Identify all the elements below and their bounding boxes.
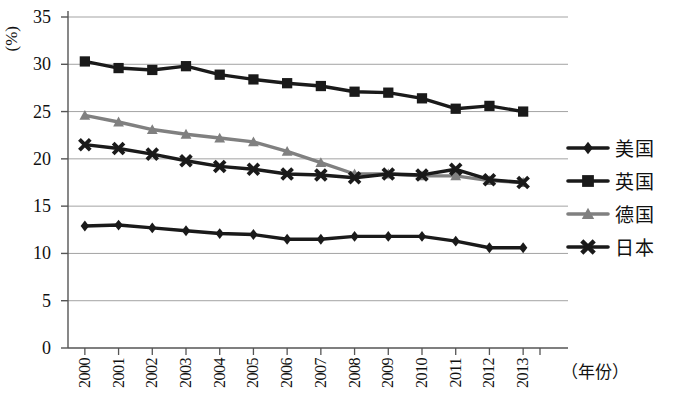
y-tick-label: 15 <box>11 197 51 215</box>
data-point-marker <box>417 93 427 103</box>
data-point-marker <box>113 63 123 73</box>
x-tick-label: 2006 <box>278 358 296 388</box>
legend-item-diamond[interactable]: 美国 <box>566 131 672 164</box>
x-tick-label: 2004 <box>211 358 229 388</box>
data-point-marker <box>383 88 393 98</box>
data-point-marker <box>350 231 358 242</box>
data-point-marker <box>181 61 191 71</box>
data-point-marker <box>148 222 156 233</box>
data-point-marker <box>114 220 122 231</box>
data-point-marker <box>451 104 461 114</box>
legend-marker-icon <box>566 236 610 258</box>
x-tick-label: 2000 <box>76 358 94 388</box>
data-point-marker <box>248 74 258 84</box>
legend-marker-icon <box>566 137 610 159</box>
data-point-marker <box>518 106 528 116</box>
legend-item-label: 美国 <box>615 134 655 161</box>
y-tick-label: 30 <box>11 55 51 73</box>
data-point-marker <box>215 70 225 80</box>
y-tick-label: 5 <box>11 292 51 310</box>
grid-lines <box>68 17 568 301</box>
y-tick-label: 10 <box>11 244 51 262</box>
x-tick-label: 2002 <box>143 358 161 388</box>
data-point-marker <box>384 231 392 242</box>
x-tick-label: 2013 <box>514 358 532 388</box>
x-tick-label: 2003 <box>177 358 195 388</box>
data-point-marker <box>582 175 594 187</box>
data-point-marker <box>249 229 257 240</box>
series-diamond <box>81 220 528 253</box>
data-point-marker <box>484 101 494 111</box>
x-tick-label: 2012 <box>480 358 498 388</box>
data-point-marker <box>485 242 493 253</box>
y-tick-label: 35 <box>11 8 51 26</box>
data-point-marker <box>147 65 157 75</box>
series-square <box>80 56 529 116</box>
x-tick-label: 2007 <box>312 358 330 388</box>
legend-item-triangle[interactable]: 德国 <box>566 197 672 230</box>
x-axis-unit-label: （年份） <box>561 358 629 383</box>
y-axis-ticks <box>61 17 68 348</box>
legend-item-label: 日本 <box>615 233 655 260</box>
x-tick-label: 2010 <box>413 358 431 388</box>
legend-item-square[interactable]: 英国 <box>566 164 672 197</box>
line-chart: (%) （年份） 05101520253035 2000200120022003… <box>0 0 674 402</box>
data-series-group <box>79 56 528 253</box>
x-tick-label: 2008 <box>346 358 364 388</box>
y-axis-unit-label: (%) <box>2 26 22 51</box>
x-tick-label: 2001 <box>110 358 128 388</box>
data-point-marker <box>418 231 426 242</box>
legend-marker-icon <box>566 203 610 225</box>
data-point-marker <box>80 56 90 66</box>
y-tick-label: 20 <box>11 150 51 168</box>
data-point-marker <box>452 236 460 247</box>
data-point-marker <box>583 141 593 153</box>
series-cross <box>79 139 528 188</box>
x-tick-label: 2011 <box>447 358 465 387</box>
data-point-marker <box>317 234 325 245</box>
legend-item-label: 英国 <box>615 167 655 194</box>
legend-item-label: 德国 <box>615 200 655 227</box>
y-tick-label: 25 <box>11 103 51 121</box>
data-point-marker <box>282 78 292 88</box>
x-tick-label: 2005 <box>244 358 262 388</box>
data-point-marker <box>81 221 89 232</box>
data-point-marker <box>316 81 326 91</box>
data-point-marker <box>283 234 291 245</box>
chart-legend: 美国英国德国日本 <box>566 131 672 263</box>
data-point-marker <box>182 225 190 236</box>
data-point-marker <box>519 242 527 253</box>
legend-item-cross[interactable]: 日本 <box>566 230 672 263</box>
data-point-marker <box>216 228 224 239</box>
legend-marker-icon <box>566 170 610 192</box>
y-tick-label: 0 <box>11 339 51 357</box>
x-tick-label: 2009 <box>379 358 397 388</box>
x-axis-ticks <box>85 348 540 355</box>
data-point-marker <box>349 87 359 97</box>
